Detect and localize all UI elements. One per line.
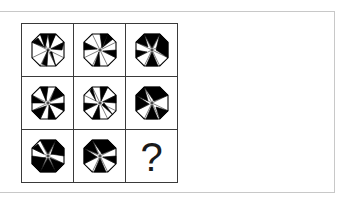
octagon-figure-icon <box>80 30 120 70</box>
octagon-figure-icon <box>132 83 172 123</box>
question-mark: ? <box>140 137 162 177</box>
grid-cell-r3c3-answer[interactable]: ? <box>126 130 178 183</box>
octagon-figure-icon <box>80 136 120 176</box>
grid-cell-r2c3 <box>126 77 178 130</box>
grid-cell-r1c1 <box>22 24 74 77</box>
grid-cell-r3c2 <box>74 130 126 183</box>
grid-cell-r3c1 <box>22 130 74 183</box>
grid-cell-r2c2 <box>74 77 126 130</box>
grid-cell-r1c3 <box>126 24 178 77</box>
grid-cell-r1c2 <box>74 24 126 77</box>
grid-cell-r2c1 <box>22 77 74 130</box>
octagon-figure-icon <box>28 136 68 176</box>
octagon-figure-icon <box>80 83 120 123</box>
puzzle-grid: ? <box>21 23 178 183</box>
octagon-figure-icon <box>28 83 68 123</box>
octagon-figure-icon <box>132 30 172 70</box>
octagon-figure-icon <box>28 30 68 70</box>
